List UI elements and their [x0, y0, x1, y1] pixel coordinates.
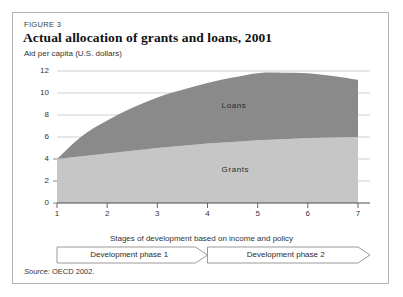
phase-band-2: Development phase 2 — [208, 247, 365, 263]
x-tick-label: 1 — [47, 209, 67, 218]
x-tick-label: 5 — [248, 209, 268, 218]
y-tick-label: 2 — [27, 176, 49, 185]
source-value: OECD 2002. — [52, 267, 95, 276]
x-tick-label: 3 — [147, 209, 167, 218]
y-tick-label: 0 — [27, 198, 49, 207]
figure-frame: FIGURE 3 Actual allocation of grants and… — [12, 12, 389, 284]
x-tick-label: 2 — [97, 209, 117, 218]
x-tick-label: 6 — [298, 209, 318, 218]
phase-label: Development phase 1 — [57, 247, 202, 263]
phase-label: Development phase 2 — [208, 247, 365, 263]
source-label: Source: — [24, 267, 50, 276]
x-axis-title: Stages of development based on income an… — [13, 234, 389, 243]
y-tick-label: 4 — [27, 154, 49, 163]
series-label-grants: Grants — [222, 165, 250, 174]
y-tick-label: 6 — [27, 132, 49, 141]
y-tick-label: 12 — [27, 66, 49, 75]
y-tick-label: 10 — [27, 88, 49, 97]
x-tick-label: 7 — [348, 209, 368, 218]
source-note: Source: OECD 2002. — [24, 267, 94, 276]
phase-band-1: Development phase 1 — [57, 247, 202, 263]
x-tick-label: 4 — [198, 209, 218, 218]
chart-svg — [13, 13, 389, 284]
chart-plot-area: 024681012 1234567 LoansGrants Stages of … — [13, 13, 389, 284]
y-tick-label: 8 — [27, 110, 49, 119]
series-label-loans: Loans — [222, 101, 247, 110]
